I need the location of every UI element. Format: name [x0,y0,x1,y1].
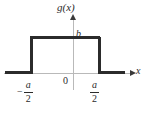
fraction-numerator: a [91,80,98,91]
origin-label: 0 [63,76,68,86]
fraction-denominator: 2 [25,94,32,105]
curve-segment-left-tail [5,71,31,74]
fraction-right: a 2 [90,80,99,104]
fraction-numerator: a [25,80,32,91]
curve-segment-rising-edge [30,37,33,74]
y-axis-arrow-icon [70,14,76,20]
y-value-label-b: b [76,29,81,39]
x-axis-label: x [136,66,140,76]
minus-sign: − [17,86,23,98]
fraction-left: a 2 [24,80,33,104]
function-label: g(x) [57,2,75,13]
curve-segment-falling-edge [98,37,101,74]
curve-segment-right-tail [98,71,125,74]
x-tick-label-negative-a-over-2: − a 2 [17,80,33,104]
rectangular-pulse-figure: g(x) b 0 x − a 2 a 2 [0,0,145,116]
y-axis-line [73,18,74,90]
curve-segment-plateau [30,36,100,39]
fraction-denominator: 2 [91,94,98,105]
x-tick-label-a-over-2: a 2 [90,80,99,104]
